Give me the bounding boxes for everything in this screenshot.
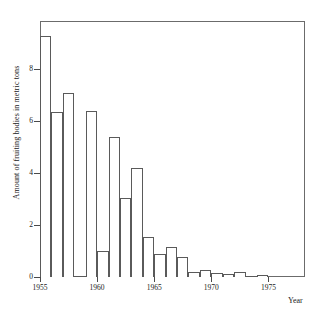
bar: [154, 254, 165, 277]
bar: [211, 273, 222, 277]
x-axis-tick-label: 1970: [191, 283, 231, 292]
x-axis-tick: [40, 277, 41, 282]
bar: [143, 237, 154, 277]
x-axis-tick-label: 1965: [134, 283, 174, 292]
bar: [188, 272, 199, 277]
x-axis-tick: [211, 277, 212, 282]
bar: [109, 137, 120, 277]
y-axis-tick: [34, 173, 40, 174]
bar: [177, 257, 188, 277]
bar: [257, 275, 268, 277]
bar: [97, 251, 108, 277]
bar: [223, 274, 234, 277]
y-axis-tick: [34, 69, 40, 70]
bar: [120, 198, 131, 277]
x-axis-tick: [268, 277, 269, 282]
bar: [200, 270, 211, 277]
x-axis-tick-label: 1960: [77, 283, 117, 292]
bars-layer: [40, 21, 305, 277]
y-axis-title: Amount of fruiting bodies in metric tons: [12, 33, 21, 233]
x-axis-tick: [154, 277, 155, 282]
bar: [86, 111, 97, 277]
x-axis-tick: [97, 277, 98, 282]
x-axis-tick-label: 1975: [248, 283, 288, 292]
bar: [166, 247, 177, 277]
chart-figure: 0246819551960196519701975 Amount of frui…: [0, 0, 327, 323]
y-axis-tick-label: 0: [9, 273, 33, 281]
bar: [246, 276, 257, 277]
y-axis-tick: [34, 121, 40, 122]
bar: [51, 112, 62, 277]
y-axis-tick: [34, 225, 40, 226]
bar: [234, 272, 245, 277]
bar: [63, 93, 74, 277]
bar: [131, 168, 142, 277]
x-axis-title: Year: [288, 296, 303, 305]
x-axis-tick-label: 1955: [20, 283, 60, 292]
bar: [74, 276, 85, 277]
bar: [40, 36, 51, 277]
